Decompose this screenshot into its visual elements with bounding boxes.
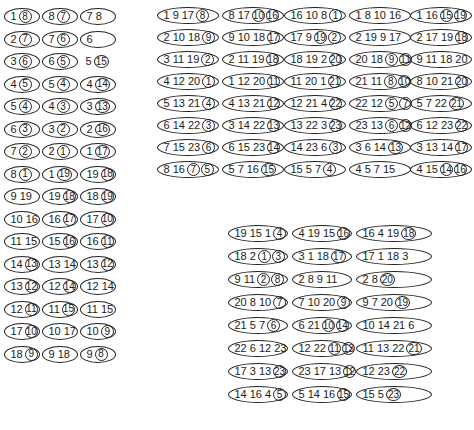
- circled-number: 20: [455, 75, 468, 88]
- left-grid: 1887782776636655154554414544331363322167…: [2, 6, 116, 365]
- number-group-oval: 18: [4, 8, 40, 25]
- number-group-oval: 117: [80, 143, 116, 160]
- circled-number: 8: [95, 348, 108, 361]
- circled-number: 5: [57, 55, 70, 68]
- number: 4: [49, 101, 55, 112]
- circled-number: 19: [57, 168, 72, 181]
- number: 18: [291, 54, 303, 65]
- number: 13: [49, 259, 61, 270]
- number-group-oval: 1122011: [222, 73, 284, 90]
- number: 2: [87, 124, 93, 135]
- number-group-oval: 1617: [42, 211, 78, 228]
- number: 17: [182, 10, 194, 21]
- number: 15: [250, 228, 262, 239]
- number-group-oval: 8102120: [410, 73, 472, 90]
- circled-number: 11: [328, 342, 341, 355]
- number: 4: [378, 228, 384, 239]
- number: 13: [291, 120, 303, 131]
- number: 12: [371, 98, 383, 109]
- number: 3: [321, 120, 327, 131]
- circled-number: 11: [25, 303, 38, 316]
- top-right-grid: 1917881710161610811810161161519210189910…: [155, 5, 472, 180]
- number-group-oval: 6211014: [292, 317, 352, 334]
- number: 11: [426, 54, 437, 65]
- circled-number: 1: [57, 145, 70, 158]
- number: 5: [299, 389, 305, 400]
- number: 16: [173, 164, 185, 175]
- number: 3: [229, 120, 235, 131]
- circled-number: 3: [19, 123, 32, 136]
- number-group-oval: 5141615: [292, 386, 352, 403]
- circled-number: 5: [273, 388, 286, 401]
- number: 2: [417, 32, 423, 43]
- number-group-oval: 119: [42, 166, 78, 183]
- number-group-oval: 1641918: [356, 225, 432, 242]
- number-group-oval: 161081: [284, 7, 346, 24]
- number: 13: [238, 98, 250, 109]
- number: 17: [11, 326, 23, 337]
- number: 22: [235, 343, 247, 354]
- number: 7: [374, 164, 380, 175]
- number: 19: [441, 32, 453, 43]
- circled-number: 17: [95, 145, 110, 158]
- number: 22: [306, 120, 318, 131]
- number: 9: [306, 32, 312, 43]
- number: 7: [259, 320, 265, 331]
- number: 8: [96, 11, 102, 22]
- number-group-oval: 2018911: [349, 51, 411, 68]
- number: 9: [363, 297, 369, 308]
- number: 13: [259, 366, 271, 377]
- number: 6: [365, 142, 371, 153]
- circled-number: 10: [322, 319, 335, 332]
- number-group-oval: 4191516: [292, 225, 352, 242]
- circled-number: 6: [385, 119, 398, 132]
- number: 19: [49, 191, 61, 202]
- number-group-oval: 1611: [80, 233, 116, 250]
- number: 1: [308, 251, 314, 262]
- number-group-oval: 1918: [80, 166, 116, 183]
- circled-number: 19: [314, 31, 327, 44]
- number: 18: [440, 54, 452, 65]
- number-group-oval: 78: [80, 8, 116, 25]
- number: 4: [229, 98, 235, 109]
- number: 18: [317, 251, 329, 262]
- circled-number: 6: [57, 33, 70, 46]
- number: 16: [247, 164, 259, 175]
- number-group-oval: 1017: [42, 323, 78, 340]
- circled-number: 7: [273, 296, 286, 309]
- circled-number: 9: [25, 348, 38, 361]
- number-group-oval: 141645: [228, 386, 288, 403]
- circled-number: 21: [449, 97, 464, 110]
- number-group-oval: 142363: [284, 139, 346, 156]
- number: 21: [356, 76, 368, 87]
- circled-number: 10: [101, 213, 114, 226]
- circled-number: 14: [440, 163, 453, 176]
- number: 5: [164, 98, 170, 109]
- number: 13: [87, 259, 99, 270]
- number: 21: [441, 76, 453, 87]
- circled-number: 12: [101, 258, 114, 271]
- number: 3: [87, 101, 93, 112]
- number: 19: [87, 169, 99, 180]
- number: 1: [11, 11, 17, 22]
- circled-number: 4: [19, 100, 32, 113]
- number-group-oval: 1221422: [284, 95, 346, 112]
- circled-number: 17: [455, 141, 468, 154]
- number: 6: [408, 320, 414, 331]
- circled-number: 22: [392, 365, 407, 378]
- number: 1: [87, 146, 93, 157]
- circled-number: 17: [267, 31, 280, 44]
- circled-number: 7: [19, 33, 32, 46]
- number-group-oval: 54: [42, 76, 78, 93]
- circled-number: 12: [25, 280, 38, 293]
- number-group-oval: 23171312: [292, 363, 352, 380]
- number: 6: [229, 142, 235, 153]
- circled-number: 20: [329, 53, 342, 66]
- number-group-oval: 11132221: [356, 340, 432, 357]
- number: 10: [374, 10, 386, 21]
- number: 15: [323, 228, 335, 239]
- number: 8: [49, 11, 55, 22]
- number: 15: [291, 164, 303, 175]
- circled-number: 9: [385, 53, 398, 66]
- number: 14: [378, 320, 390, 331]
